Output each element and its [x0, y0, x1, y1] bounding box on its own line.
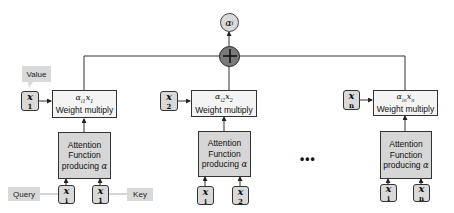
output-alpha-sub: i [232, 19, 234, 26]
sum-bus-line [84, 56, 405, 90]
var-label: x [166, 91, 172, 102]
plus-icon [220, 46, 239, 67]
col2-attention-box: Attention Function producing α [198, 131, 251, 177]
att-line1: Attention [208, 138, 242, 149]
att-line2: Function [390, 150, 423, 161]
output-alpha-node: αi [220, 13, 239, 32]
col3-key-node: xn [413, 184, 430, 202]
col2-weight-multiply-box: αi2x2 Weight multiply [191, 90, 257, 117]
col2-weight-label: Weight multiply [195, 105, 252, 115]
col2-weight-formula: αi2x2 [215, 92, 233, 105]
var-sub: n [419, 194, 424, 203]
col3-query-node: xi [380, 184, 397, 202]
ellipsis: ••• [300, 152, 316, 166]
col2-query-node: xi [197, 186, 214, 205]
att-line3: producing α [202, 159, 247, 170]
col1-weight-formula: αi1x1 [76, 93, 94, 106]
col1-weight-multiply-box: αi1x1 Weight multiply [52, 90, 117, 118]
var-sub: 1 [98, 196, 103, 205]
var-label: x [64, 185, 70, 196]
var-sub: i [387, 194, 390, 203]
col3-weight-multiply-box: αinxn Weight multiply [373, 90, 438, 116]
var-label: x [419, 183, 425, 194]
var-label: x [203, 186, 209, 197]
att-line3: producing α [383, 160, 428, 171]
var-label: x [349, 90, 355, 101]
col1-weight-label: Weight multiply [56, 105, 113, 115]
var-sub: n [349, 101, 354, 110]
var-sub: 1 [28, 102, 33, 111]
var-sub: i [204, 197, 207, 206]
col1-value-node: x1 [21, 91, 39, 111]
value-callout: Value [22, 66, 51, 82]
value-callout-label: Value [27, 70, 47, 79]
col1-attention-box: Attention Function producing α [58, 132, 111, 179]
var-label: x [27, 91, 33, 102]
col2-key-node: x2 [232, 186, 249, 205]
col3-weight-formula: αinxn [397, 92, 415, 105]
var-label: x [98, 185, 104, 196]
var-label: x [238, 186, 244, 197]
col3-attention-box: Attention Function producing α [380, 131, 432, 179]
var-sub: i [65, 196, 68, 205]
att-line1: Attention [389, 139, 423, 150]
var-label: x [386, 183, 392, 194]
var-sub: 2 [167, 102, 172, 111]
att-line3: producing α [62, 161, 107, 172]
key-callout-label: Key [133, 190, 147, 199]
col3-weight-label: Weight multiply [377, 104, 434, 114]
col3-value-node: xn [343, 90, 360, 110]
query-callout-label: Query [13, 190, 35, 199]
col1-query-node: xi [58, 185, 75, 204]
sum-node [219, 46, 240, 67]
col2-value-node: x2 [160, 91, 178, 111]
att-line2: Function [208, 149, 241, 160]
key-callout: Key [127, 188, 153, 201]
col1-key-node: x1 [92, 185, 109, 204]
att-line2: Function [68, 150, 101, 161]
value-callout-tail [28, 82, 33, 88]
var-sub: 2 [238, 197, 243, 206]
att-line1: Attention [68, 140, 102, 151]
query-callout: Query [8, 187, 40, 201]
